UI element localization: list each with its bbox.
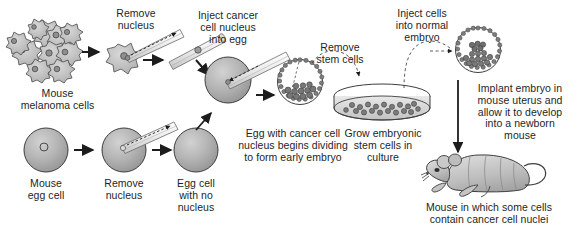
label-inject-cancer-cell-nucleus: Inject cancer cell nucleus into egg xyxy=(180,10,276,45)
label-remove-nucleus-top: Remove nucleus xyxy=(98,8,174,32)
egg-cell-icon xyxy=(24,128,68,172)
single-melanoma-cell-icon xyxy=(106,43,141,74)
diagram-canvas: Mouse melanoma cells Remove nucleus Inje… xyxy=(0,0,577,236)
egg-cell-icon xyxy=(102,128,146,172)
melanoma-cell-cluster-icon xyxy=(6,19,83,83)
normal-embryo-icon xyxy=(456,26,502,73)
label-remove-nucleus-bottom: Remove nucleus xyxy=(88,178,160,202)
enucleated-egg-cell-icon xyxy=(174,128,218,172)
micropipette-extracting-nucleus-icon xyxy=(120,122,178,154)
label-inject-cells-into-normal-embryo: Inject cells into normal embryo xyxy=(385,8,459,43)
dashed-arrow-icon xyxy=(404,41,452,88)
micropipette-extracting-nucleus-icon xyxy=(125,30,184,63)
arrow-icon xyxy=(196,60,209,75)
label-remove-stem-cells: Remove stem cells xyxy=(305,42,375,66)
label-egg-cell-with-no-nucleus: Egg cell with no nucleus xyxy=(162,178,230,213)
label-grow-embryonic-stem-cells: Grow embryonic stem cells in culture xyxy=(332,128,434,163)
label-mouse-with-cancer-nuclei: Mouse in which some cells contain cancer… xyxy=(408,202,570,226)
micropipette-injecting-nucleus-icon xyxy=(226,52,290,89)
label-mouse-melanoma-cells: Mouse melanoma cells xyxy=(0,88,115,112)
label-mouse-egg-cell: Mouse egg cell xyxy=(10,178,82,202)
arrow-icon xyxy=(196,113,211,130)
egg-cell-icon xyxy=(205,57,251,103)
label-implant-embryo: Implant embryo in mouse uterus and allow… xyxy=(466,83,574,142)
petri-dish-icon xyxy=(334,84,430,120)
newborn-mouse-icon xyxy=(421,154,546,197)
